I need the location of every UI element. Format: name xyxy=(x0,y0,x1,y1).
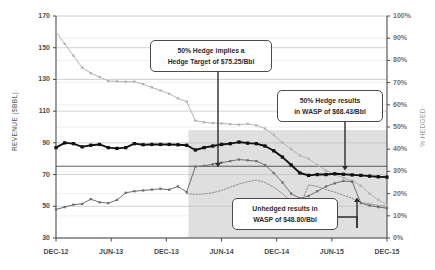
data-point xyxy=(264,164,266,166)
y-tick-label-left: 130 xyxy=(24,75,50,82)
data-point xyxy=(299,154,301,156)
callout-line-1: 50% Hedge results xyxy=(284,95,376,106)
data-point xyxy=(290,163,293,166)
y-tick-label-left: 50 xyxy=(24,202,50,209)
data-point xyxy=(186,100,188,102)
y-tick-label-right: 50% xyxy=(393,123,425,130)
data-point xyxy=(159,89,161,91)
y-tick-label-left: 70 xyxy=(24,171,50,178)
data-point xyxy=(325,169,327,171)
x-tick-label: DEC-12 xyxy=(31,248,81,255)
data-point xyxy=(385,175,388,178)
data-point xyxy=(237,140,240,143)
data-point xyxy=(281,155,284,158)
data-point xyxy=(90,72,92,74)
data-point xyxy=(325,185,327,187)
data-point xyxy=(116,199,118,201)
callout-line-2: WASP of $48.80/Bbl xyxy=(239,214,331,225)
data-point xyxy=(360,185,362,187)
data-point xyxy=(333,172,336,175)
data-point xyxy=(194,165,196,167)
data-point xyxy=(273,134,275,136)
data-point xyxy=(229,123,231,125)
x-tick-label: JUN-15 xyxy=(307,248,357,255)
y-tick-label-right: 90% xyxy=(393,34,425,41)
data-point xyxy=(212,122,214,124)
data-point xyxy=(151,86,153,88)
data-point xyxy=(212,163,214,165)
data-point xyxy=(264,127,266,129)
data-point xyxy=(220,122,222,124)
data-point xyxy=(89,144,92,147)
hedge-wasp-callout: 50% Hedge results in WASP of $68.43/Bbl xyxy=(277,90,383,122)
data-point xyxy=(334,182,336,184)
y-tick-label-right: 30% xyxy=(393,167,425,174)
data-point xyxy=(342,173,345,176)
callout-line-1: Unhedged results in xyxy=(239,203,331,214)
data-point xyxy=(246,123,248,125)
data-point xyxy=(98,76,100,78)
data-point xyxy=(386,207,388,209)
y-tick-label-left: 150 xyxy=(24,44,50,51)
data-point xyxy=(168,188,170,190)
data-point xyxy=(125,81,127,83)
y-tick-label-right: 70% xyxy=(393,79,425,86)
data-point xyxy=(168,93,170,95)
y-tick-label-right: 10% xyxy=(393,212,425,219)
chart-container: REVENUE ($BBL) % HEDGED 50% Hedge implie… xyxy=(0,0,435,270)
y-tick-label-left: 90 xyxy=(24,139,50,146)
data-point xyxy=(72,142,75,145)
data-point xyxy=(351,181,353,183)
x-tick-label: DEC-15 xyxy=(362,248,412,255)
data-point xyxy=(316,164,318,166)
data-point xyxy=(342,180,344,182)
data-point xyxy=(324,173,327,176)
y-tick-label-left: 170 xyxy=(24,12,50,19)
y-tick-label-left: 30 xyxy=(24,234,50,241)
data-point xyxy=(203,165,205,167)
data-point xyxy=(115,147,118,150)
data-point xyxy=(54,146,57,149)
data-point xyxy=(81,203,83,205)
data-point xyxy=(238,158,240,160)
data-point xyxy=(273,172,275,174)
data-point xyxy=(133,190,135,192)
data-point xyxy=(220,143,223,146)
data-point xyxy=(342,177,344,179)
data-point xyxy=(229,142,232,145)
y-tick-label-right: 20% xyxy=(393,190,425,197)
data-point xyxy=(351,173,354,176)
data-point xyxy=(368,204,370,206)
data-point xyxy=(203,121,205,123)
data-point xyxy=(55,31,57,33)
data-point xyxy=(72,54,74,56)
data-point xyxy=(307,195,309,197)
data-point xyxy=(98,143,101,146)
data-point xyxy=(133,81,135,83)
data-point xyxy=(359,174,362,177)
y-tick-label-right: 0% xyxy=(393,234,425,241)
data-point xyxy=(185,144,188,147)
data-point xyxy=(298,171,301,174)
data-point xyxy=(186,191,188,193)
callout-line-2: Hedge Target of $75.25/Bbl xyxy=(157,56,265,67)
data-point xyxy=(133,142,136,145)
data-point xyxy=(377,206,379,208)
data-point xyxy=(238,123,240,125)
data-point xyxy=(290,148,292,150)
data-point xyxy=(159,188,161,190)
data-point xyxy=(246,159,248,161)
data-point xyxy=(281,142,283,144)
data-point xyxy=(168,143,171,146)
hedge-target-callout: 50% Hedge implies a Hedge Target of $75.… xyxy=(150,40,272,72)
y-tick-label-right: 80% xyxy=(393,56,425,63)
data-point xyxy=(72,204,74,206)
data-point xyxy=(220,162,222,164)
data-point xyxy=(255,160,257,162)
data-point xyxy=(64,206,66,208)
y-tick-label-left: 110 xyxy=(24,107,50,114)
data-point xyxy=(307,174,310,177)
data-point xyxy=(176,143,179,146)
data-point xyxy=(281,181,283,183)
x-tick-label: DEC-14 xyxy=(252,248,302,255)
